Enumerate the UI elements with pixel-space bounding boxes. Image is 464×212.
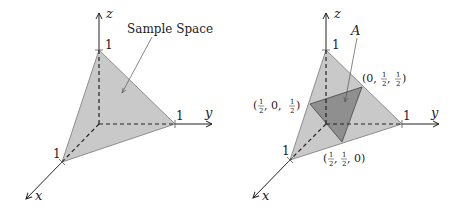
svg-text:2: 2 xyxy=(396,80,400,88)
svg-text:,: , xyxy=(387,72,391,85)
z-axis-label: z xyxy=(105,6,113,21)
z-tick-label: 1 xyxy=(332,38,340,52)
y-tick-label: 1 xyxy=(403,109,411,123)
svg-text:2: 2 xyxy=(342,160,346,168)
svg-text:1: 1 xyxy=(259,98,263,106)
svg-text:(0,: (0, xyxy=(362,72,377,85)
svg-text:1: 1 xyxy=(329,151,333,159)
svg-text:, 0,: , 0, xyxy=(264,99,282,112)
svg-text:1: 1 xyxy=(382,71,386,79)
y-tick-label: 1 xyxy=(176,109,184,123)
event-a-label: A xyxy=(350,23,360,38)
x-axis xyxy=(253,160,290,198)
sample-space-leader xyxy=(122,37,152,93)
x-tick-label: 1 xyxy=(282,144,290,158)
svg-text:1: 1 xyxy=(396,71,400,79)
point-label-half-half-zero: ( 1 2 , 1 2 , 0) xyxy=(323,151,365,168)
left-panel: z y x 1 1 1 Sample Space xyxy=(26,6,213,203)
svg-text:2: 2 xyxy=(259,107,263,115)
right-panel: z y x 1 1 1 A ( 1 2 , 0, 1 2 ) (0, 1 2 , xyxy=(253,6,439,203)
svg-text:1: 1 xyxy=(290,98,294,106)
point-label-half-zero-half: ( 1 2 , 0, 1 2 ) xyxy=(253,98,300,115)
svg-text:, 0): , 0) xyxy=(347,152,365,165)
svg-text:): ) xyxy=(402,72,406,85)
point-label-zero-half-half: (0, 1 2 , 1 2 ) xyxy=(362,71,406,88)
x-axis-label: x xyxy=(35,188,43,203)
sample-space-label: Sample Space xyxy=(127,22,213,36)
x-axis-label: x xyxy=(262,188,270,203)
z-tick-label: 1 xyxy=(105,38,113,52)
probability-simplex-figure: z y x 1 1 1 Sample Space z y x 1 1 1 xyxy=(0,0,464,212)
svg-text:(: ( xyxy=(253,99,257,112)
y-axis-label: y xyxy=(430,105,439,120)
svg-text:2: 2 xyxy=(290,107,294,115)
svg-text:1: 1 xyxy=(342,151,346,159)
svg-text:2: 2 xyxy=(382,80,386,88)
y-axis-label: y xyxy=(204,105,213,120)
x-axis xyxy=(26,162,62,199)
z-axis-label: z xyxy=(333,6,341,21)
svg-text:,: , xyxy=(334,152,338,165)
svg-text:): ) xyxy=(296,99,300,112)
x-tick-label: 1 xyxy=(53,147,61,161)
svg-text:2: 2 xyxy=(329,160,333,168)
svg-text:(: ( xyxy=(323,152,327,165)
